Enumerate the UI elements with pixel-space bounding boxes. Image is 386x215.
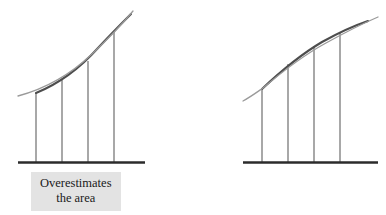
underestimate-bars [262, 33, 340, 162]
overestimate-shade-region [18, 12, 133, 95]
underestimates-panel: Underestimates the area [193, 0, 386, 215]
underestimate-curve [243, 17, 378, 101]
overestimate-bars [36, 32, 114, 162]
underestimate-curve-emphasis [262, 21, 368, 89]
riemann-sum-figure: Overestimates the area Underestimates th… [0, 0, 386, 215]
overestimates-panel: Overestimates the area [0, 0, 193, 215]
overestimates-caption-line1: Overestimates [40, 176, 112, 191]
overestimate-curve-emphasis [36, 14, 131, 93]
overestimates-caption: Overestimates the area [31, 172, 121, 211]
underestimates-diagram [193, 0, 386, 215]
overestimate-curve [18, 11, 133, 96]
overestimates-caption-line2: the area [40, 191, 112, 206]
